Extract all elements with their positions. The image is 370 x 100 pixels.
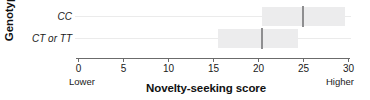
x-axis-tick-label-15: 15 [194, 63, 234, 75]
x-axis-tick-label-0: 0 [59, 63, 99, 75]
x-axis-tick-20 [258, 58, 259, 62]
y-axis-title: Genotype [0, 0, 18, 43]
y-axis-tick-label-cc: CC [58, 11, 72, 22]
x-axis-tick-label-10: 10 [149, 63, 189, 75]
x-axis-tick-label-25: 25 [284, 63, 324, 75]
x-axis-tick-30 [348, 58, 349, 62]
x-axis-tick-label-5: 5 [104, 63, 144, 75]
x-axis-tick-10 [168, 58, 169, 62]
gridline-ct-or-tt [75, 38, 351, 39]
x-axis-tick-5 [123, 58, 124, 62]
median-marker-cc [302, 6, 304, 27]
x-axis-tick-15 [213, 58, 214, 62]
x-axis-tick-25 [303, 58, 304, 62]
novelty-seeking-score-chart: Genotype CC CT or TT 0 5 10 15 20 25 30 … [0, 0, 370, 100]
x-axis-tick-label-20: 20 [239, 63, 279, 75]
x-axis-title: Novelty-seeking score [0, 81, 370, 95]
x-axis-tick-0 [78, 58, 79, 62]
plot-area [78, 0, 348, 58]
median-marker-ct-or-tt [261, 28, 263, 49]
x-axis-tick-label-30: 30 [329, 63, 369, 75]
y-axis-tick-label-ct-or-tt: CT or TT [32, 33, 72, 44]
interval-band-ct-or-tt [218, 29, 297, 48]
